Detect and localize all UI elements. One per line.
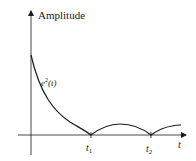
tick-label-t2: t2 <box>146 143 153 156</box>
y-axis-label: Amplitude <box>38 9 85 21</box>
error-squared-curve <box>31 55 181 135</box>
amplitude-diagram: Amplitude e2(t) t1 t2 t <box>0 0 196 161</box>
tick-label-t1: t1 <box>86 142 93 155</box>
curve-label: e2(t) <box>41 77 57 88</box>
x-axis-label: t <box>178 139 181 150</box>
